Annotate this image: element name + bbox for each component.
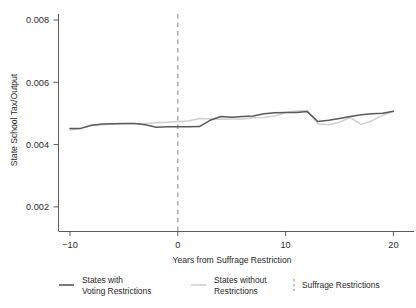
line-chart: 0.008 0.006 0.004 0.002 State School Tax… [0,0,416,308]
y-tick-label-0002: 0.002 [26,202,49,212]
y-tick-label-0004: 0.004 [26,140,49,150]
x-axis-title: Years from Suffrage Restriction [173,255,292,265]
y-axis: 0.008 0.006 0.004 0.002 State School Tax… [9,14,59,231]
x-axis: −10 0 10 20 Years from Suffrage Restrict… [59,232,415,266]
chart-figure: 0.008 0.006 0.004 0.002 State School Tax… [0,0,416,308]
x-tick-label-20: 20 [388,240,398,250]
y-axis-title: State School Tax/Output [9,73,19,166]
legend-label-suffrage-restrictions: Suffrage Restrictions [302,280,380,290]
legend-label-states-without-line1: States without [214,275,267,285]
y-tick-label-0008: 0.008 [26,15,49,25]
x-tick-label-10: 10 [280,240,290,250]
x-tick-label-0: 0 [175,240,180,250]
x-tick-label-minus10: −10 [62,240,78,250]
legend-label-states-without-line2: Restrictions [214,286,258,296]
legend-label-states-with-line2: Voting Restrictions [82,286,151,296]
y-tick-label-0006: 0.006 [26,78,49,88]
chart-legend: States with Voting Restrictions States w… [59,275,380,296]
series-line-states-without-restrictions [70,111,393,130]
legend-label-states-with-line1: States with [82,275,123,285]
